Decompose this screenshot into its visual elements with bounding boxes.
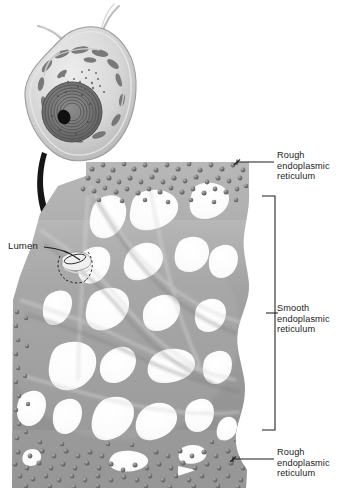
endoplasmic-reticulum-illustration	[0, 160, 260, 492]
nucleus	[42, 82, 102, 142]
cell-inset	[25, 4, 136, 161]
label-smooth-endoplasmic-reticulum: Smooth endoplasmic reticulum	[277, 303, 330, 335]
label-rough-endoplasmic-reticulum-top: Rough endoplasmic reticulum	[277, 150, 330, 182]
label-rough-endoplasmic-reticulum-bottom: Rough endoplasmic reticulum	[277, 447, 330, 479]
figure-canvas: Rough endoplasmic reticulum Smooth endop…	[0, 0, 343, 499]
bracket-smooth-er	[262, 196, 278, 430]
er-diagram-svg	[0, 0, 343, 499]
label-lumen: Lumen	[8, 241, 38, 252]
